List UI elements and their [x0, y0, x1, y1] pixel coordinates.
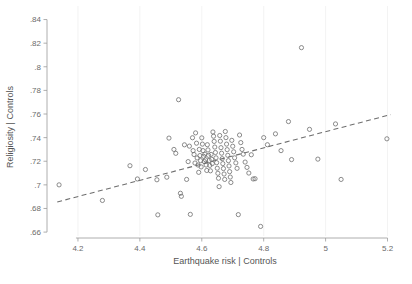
- data-point: [233, 156, 237, 160]
- data-point: [222, 172, 226, 176]
- data-point: [213, 145, 217, 149]
- data-point: [211, 134, 215, 138]
- data-point: [197, 170, 201, 174]
- data-point: [155, 178, 159, 182]
- x-axis: 4.24.44.64.855.2: [72, 238, 393, 253]
- data-point: [193, 131, 197, 135]
- x-axis-title: Earthquake risk | Controls: [173, 256, 277, 266]
- data-point: [100, 198, 104, 202]
- data-point: [213, 150, 217, 154]
- data-point: [234, 161, 238, 165]
- data-point: [333, 122, 337, 126]
- data-point: [273, 132, 277, 136]
- fit-line: [57, 115, 390, 202]
- data-point: [211, 130, 215, 134]
- data-point: [229, 180, 233, 184]
- data-point: [212, 139, 216, 143]
- data-point: [200, 142, 204, 146]
- data-point: [316, 157, 320, 161]
- x-tick-label: 4.4: [134, 244, 146, 253]
- y-tick-label: .7: [34, 181, 41, 190]
- data-point: [167, 136, 171, 140]
- data-point: [225, 148, 229, 152]
- data-point: [243, 160, 247, 164]
- data-point: [226, 159, 230, 163]
- data-point: [214, 156, 218, 160]
- data-point: [240, 147, 244, 151]
- data-point: [205, 143, 209, 147]
- data-point: [185, 177, 189, 181]
- x-tick-label: 4.8: [258, 244, 270, 253]
- data-point: [216, 171, 220, 175]
- data-point: [385, 137, 389, 141]
- data-point: [289, 157, 293, 161]
- y-tick-label: .74: [30, 134, 42, 143]
- data-point: [216, 176, 220, 180]
- data-point: [223, 177, 227, 181]
- data-point: [339, 177, 343, 181]
- x-tick-label: 4.2: [72, 244, 84, 253]
- data-point: [221, 162, 225, 166]
- data-point: [239, 140, 243, 144]
- y-tick-label: .78: [30, 86, 42, 95]
- y-axis: .66.68.7.72.74.76.78.8.82.84: [30, 15, 47, 237]
- gridlines-group: [78, 6, 388, 236]
- data-point: [194, 141, 198, 145]
- data-point: [215, 161, 219, 165]
- data-point: [245, 165, 249, 169]
- y-tick-label: .68: [30, 204, 42, 213]
- data-point: [228, 175, 232, 179]
- data-point: [165, 175, 169, 179]
- data-point: [206, 153, 210, 157]
- data-point: [235, 166, 239, 170]
- data-point: [247, 171, 251, 175]
- y-tick-label: .76: [30, 110, 42, 119]
- data-point: [188, 212, 192, 216]
- data-point: [231, 144, 235, 148]
- data-point: [219, 151, 223, 155]
- y-tick-label: .72: [30, 157, 42, 166]
- data-point: [215, 166, 219, 170]
- data-point: [221, 166, 225, 170]
- plot-canvas: .66.68.7.72.74.76.78.8.82.84 4.24.44.64.…: [0, 0, 412, 284]
- data-point: [187, 144, 191, 148]
- data-point: [228, 170, 232, 174]
- data-point: [143, 167, 147, 171]
- y-axis-title: Religiosity | Controls: [5, 86, 15, 168]
- data-point: [259, 224, 263, 228]
- regression-fit-line: [57, 115, 390, 202]
- data-point: [192, 152, 196, 156]
- data-point: [182, 143, 186, 147]
- data-point: [227, 164, 231, 168]
- data-point: [156, 213, 160, 217]
- data-points-group: [57, 46, 389, 229]
- data-point: [237, 133, 241, 137]
- data-point: [279, 149, 283, 153]
- data-point: [206, 148, 210, 152]
- data-point: [232, 150, 236, 154]
- data-point: [57, 183, 61, 187]
- data-point: [299, 46, 303, 50]
- y-tick-label: .84: [30, 15, 42, 24]
- y-tick-label: .8: [34, 63, 41, 72]
- data-point: [230, 138, 234, 142]
- data-point: [174, 151, 178, 155]
- data-point: [224, 142, 228, 146]
- data-point: [218, 139, 222, 143]
- data-point: [217, 185, 221, 189]
- x-tick-label: 5.2: [382, 244, 394, 253]
- data-point: [218, 133, 222, 137]
- y-tick-label: .82: [30, 39, 42, 48]
- data-point: [128, 164, 132, 168]
- data-point: [186, 160, 190, 164]
- x-tick-label: 4.6: [196, 244, 208, 253]
- data-point: [307, 127, 311, 131]
- data-point: [236, 213, 240, 217]
- x-tick-label: 5: [323, 244, 328, 253]
- data-point: [286, 119, 290, 123]
- scatter-plot-figure: .66.68.7.72.74.76.78.8.82.84 4.24.44.64.…: [0, 0, 412, 284]
- data-point: [223, 129, 227, 133]
- data-point: [249, 153, 253, 157]
- data-point: [219, 146, 223, 150]
- data-point: [209, 152, 213, 156]
